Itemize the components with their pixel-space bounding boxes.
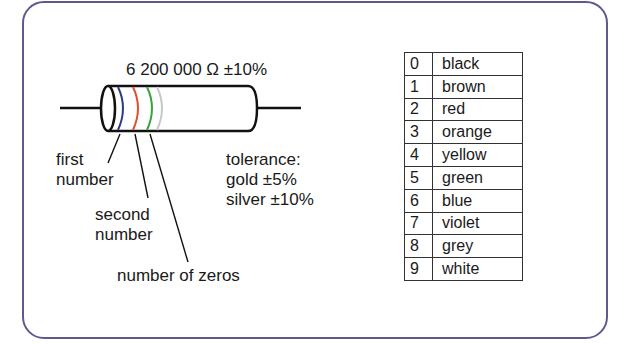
table-row: 6blue — [405, 189, 523, 212]
pointer-zeros — [150, 134, 188, 262]
digit-cell: 1 — [405, 75, 433, 98]
color-name-cell: yellow — [433, 144, 523, 167]
color-code-table: 0black1brown2red3orange4yellow5green6blu… — [404, 52, 523, 281]
digit-cell: 4 — [405, 144, 433, 167]
table-row: 0black — [405, 53, 523, 76]
digit-cell: 6 — [405, 189, 433, 212]
table-row: 5green — [405, 166, 523, 189]
tolerance-gold: gold ±5% — [226, 170, 314, 190]
resistor-end-cap — [101, 86, 115, 131]
color-name-cell: violet — [433, 212, 523, 235]
second-number-line2: number — [95, 225, 153, 245]
digit-cell: 0 — [405, 53, 433, 76]
digit-cell: 8 — [405, 235, 433, 258]
first-number-line2: number — [56, 170, 114, 190]
color-name-cell: red — [433, 98, 523, 121]
digit-cell: 7 — [405, 212, 433, 235]
table-row: 4yellow — [405, 144, 523, 167]
tolerance-label: tolerance: gold ±5% silver ±10% — [226, 150, 314, 210]
color-name-cell: brown — [433, 75, 523, 98]
second-number-label: second number — [95, 205, 153, 245]
table-row: 1brown — [405, 75, 523, 98]
color-name-cell: white — [433, 258, 523, 281]
table-row: 2red — [405, 98, 523, 121]
table-row: 3orange — [405, 121, 523, 144]
second-number-line1: second — [95, 205, 153, 225]
tolerance-title: tolerance: — [226, 150, 314, 170]
resistor-value-label: 6 200 000 Ω ±10% — [126, 60, 267, 80]
first-number-line1: first — [56, 150, 114, 170]
color-name-cell: green — [433, 166, 523, 189]
color-name-cell: blue — [433, 189, 523, 212]
table-row: 7violet — [405, 212, 523, 235]
table-row: 9white — [405, 258, 523, 281]
digit-cell: 9 — [405, 258, 433, 281]
resistor-body — [108, 86, 257, 131]
digit-cell: 5 — [405, 166, 433, 189]
pointer-second — [135, 134, 148, 198]
first-number-label: first number — [56, 150, 114, 190]
color-name-cell: black — [433, 53, 523, 76]
digit-cell: 2 — [405, 98, 433, 121]
color-name-cell: orange — [433, 121, 523, 144]
number-of-zeros-label: number of zeros — [117, 266, 240, 286]
color-name-cell: grey — [433, 235, 523, 258]
digit-cell: 3 — [405, 121, 433, 144]
table-row: 8grey — [405, 235, 523, 258]
tolerance-silver: silver ±10% — [226, 190, 314, 210]
